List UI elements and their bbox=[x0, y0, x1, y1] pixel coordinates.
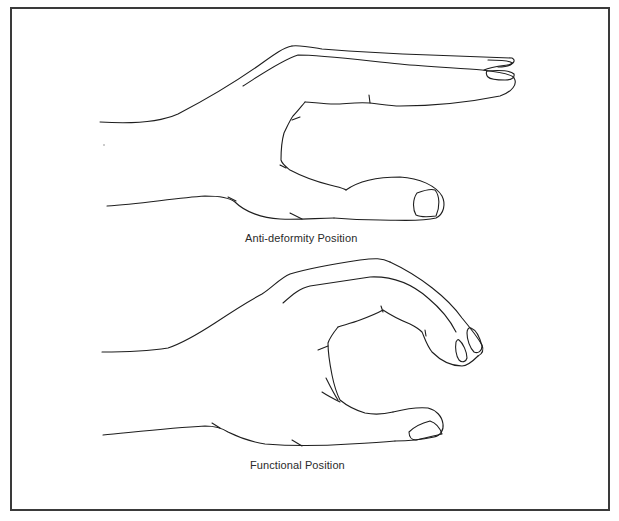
forearm-dorsal-outline bbox=[100, 46, 292, 123]
thumb-outline bbox=[334, 177, 444, 221]
middle-finger-dorsal-outline bbox=[283, 277, 456, 332]
palm-crease-thenar-1 bbox=[326, 378, 338, 400]
finger-palmar-outline bbox=[338, 310, 478, 366]
middle-finger-dorsal-outline bbox=[243, 55, 514, 86]
anti-deformity-hand-drawing bbox=[100, 46, 515, 221]
thumbnail bbox=[409, 421, 442, 440]
functional-hand-drawing bbox=[102, 259, 483, 446]
palm-crease-short bbox=[318, 346, 328, 350]
index-finger-dorsal-outline bbox=[292, 46, 514, 65]
knuckle-crease bbox=[369, 95, 370, 103]
palm-outline bbox=[281, 102, 346, 190]
forearm-palmar-outline bbox=[107, 196, 334, 219]
thumbnail bbox=[414, 190, 439, 217]
finger-palmar-outline bbox=[305, 78, 515, 106]
caption-functional-position: Functional Position bbox=[250, 459, 345, 471]
fingertip-outline bbox=[484, 65, 508, 70]
forearm-palmar-outline bbox=[103, 426, 395, 446]
palm-crease-short bbox=[292, 117, 300, 120]
thenar-crease bbox=[290, 213, 302, 219]
hand-positions-illustration bbox=[0, 0, 619, 521]
knuckle-crease-distal bbox=[425, 330, 426, 336]
forearm-dorsal-outline bbox=[102, 259, 390, 352]
fingernail-middle bbox=[456, 340, 467, 362]
fingernail-index bbox=[467, 328, 482, 353]
caption-anti-deformity-position: Anti-deformity Position bbox=[245, 232, 357, 244]
